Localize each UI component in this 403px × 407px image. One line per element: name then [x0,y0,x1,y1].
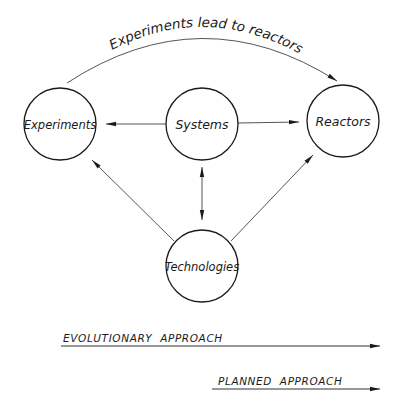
node-systems: Systems [166,88,238,160]
diagram-canvas: Experiments lead to reactors Experiments… [0,0,403,407]
arrow-technologies-to-experiments [92,160,174,241]
node-experiments-label: Experiments [24,118,96,132]
planned-approach: PLANNED APPROACH [212,375,380,389]
node-reactors-label: Reactors [315,114,371,129]
node-reactors: Reactors [307,85,379,157]
arrow-systems-to-reactors [238,122,299,123]
node-systems-label: Systems [175,117,229,132]
evolutionary-approach: EVOLUTIONARY APPROACH [61,332,380,346]
arc-label: Experiments lead to reactors [106,14,306,57]
node-technologies: Technologies [165,230,239,302]
evolutionary-approach-label: EVOLUTIONARY APPROACH [63,332,223,344]
arrow-technologies-to-reactors [231,155,313,241]
node-experiments: Experiments [24,88,96,160]
planned-approach-label: PLANNED APPROACH [218,375,343,387]
node-technologies-label: Technologies [165,260,239,274]
